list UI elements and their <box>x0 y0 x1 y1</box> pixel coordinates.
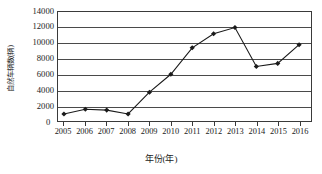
y-axis-tick-label: 4000 <box>10 86 54 95</box>
series-line <box>64 28 299 114</box>
plot-area <box>57 11 312 122</box>
y-axis-tick-label: 10000 <box>10 38 54 47</box>
data-series-layer <box>58 12 311 121</box>
x-axis-title: 年份(年) <box>0 152 322 165</box>
y-axis-tick-label: 12000 <box>10 22 54 31</box>
x-axis-tick-label: 2016 <box>285 127 315 136</box>
line-chart: 自然车辆数(辆) 2000400060008000100001200014000… <box>0 0 322 174</box>
x-axis-tick-mark <box>149 122 150 126</box>
y-axis-tick-label: 2000 <box>10 102 54 111</box>
data-point-marker <box>104 108 109 113</box>
y-axis-tick-label: 14000 <box>10 7 54 16</box>
y-axis-tick-label: 8000 <box>10 54 54 63</box>
y-axis-zero-label: 0 <box>46 117 50 127</box>
x-axis-tick-mark <box>63 122 64 126</box>
x-axis-tick-mark <box>235 122 236 126</box>
y-axis-tick-label: 6000 <box>10 70 54 79</box>
x-axis-tick-mark <box>106 122 107 126</box>
x-axis-tick-mark <box>85 122 86 126</box>
x-axis-tick-mark <box>192 122 193 126</box>
y-axis-tick-labels: 2000400060008000100001200014000 <box>8 0 54 174</box>
data-point-marker <box>254 64 259 69</box>
data-point-marker <box>61 111 66 116</box>
data-point-marker <box>232 25 237 30</box>
x-axis-tick-mark <box>214 122 215 126</box>
x-axis-tick-mark <box>257 122 258 126</box>
data-point-marker <box>83 107 88 112</box>
x-axis-tick-mark <box>171 122 172 126</box>
x-axis-tick-mark <box>128 122 129 126</box>
x-axis-tick-mark <box>278 122 279 126</box>
x-axis-tick-mark <box>300 122 301 126</box>
